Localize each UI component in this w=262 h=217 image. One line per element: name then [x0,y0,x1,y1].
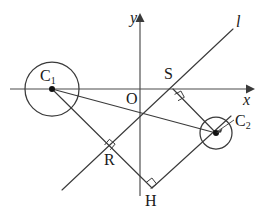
origin-label: O [126,91,138,107]
point-h-label: H [145,193,157,209]
circle-c2-label-letter: C [235,112,246,129]
circle-c1-label-letter: C [40,67,51,84]
line-l-label: l [236,14,240,30]
y-axis-label: y [130,10,137,26]
line-l-segment [62,29,233,190]
circle-c1-label: C1 [40,68,56,84]
segment-s-c2 [173,89,216,133]
point-r-label: R [104,152,115,168]
figure-canvas [0,0,262,217]
circle-c1-label-subscript: 1 [51,75,56,86]
x-axis-label: x [243,92,250,108]
segments-group [52,89,231,188]
center-dot-c1 [49,86,55,92]
right-angle-marks-group [105,91,185,189]
point-s-label: S [164,66,173,82]
line-l-group [62,29,233,190]
circle-c2-label-subscript: 2 [246,120,251,131]
circle-c2-label: C2 [235,113,251,129]
geometry-figure: y x O l C1 C2 S R H [0,0,262,217]
